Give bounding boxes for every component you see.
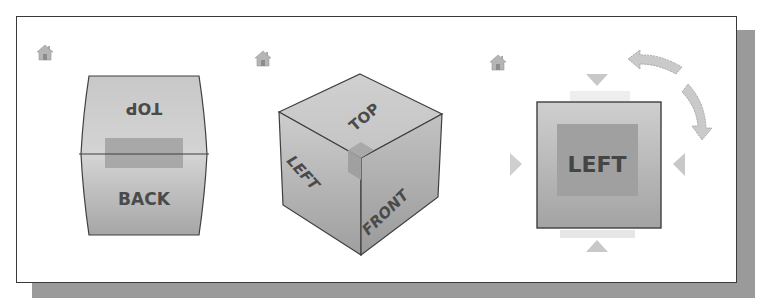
rotate-cw-arrow[interactable] [682,84,712,140]
triangle-left[interactable] [510,153,522,176]
triangle-down[interactable] [586,240,608,252]
viewcube-flat[interactable]: LEFT [500,40,730,269]
face-top-label[interactable]: TOP [126,99,163,118]
edge-highlight[interactable] [105,138,183,168]
home-icon[interactable] [254,49,272,67]
rotate-ccw-arrow[interactable] [628,50,682,74]
viewcube-barrel[interactable]: TOP BACK [75,70,215,244]
triangle-right[interactable] [673,153,685,176]
face-left-label: LEFT [567,152,626,177]
triangle-up[interactable] [586,74,608,86]
face-back-label[interactable]: BACK [118,189,171,209]
viewcube-isometric[interactable]: TOP LEFT FRONT [270,68,450,267]
home-icon[interactable] [36,43,54,61]
